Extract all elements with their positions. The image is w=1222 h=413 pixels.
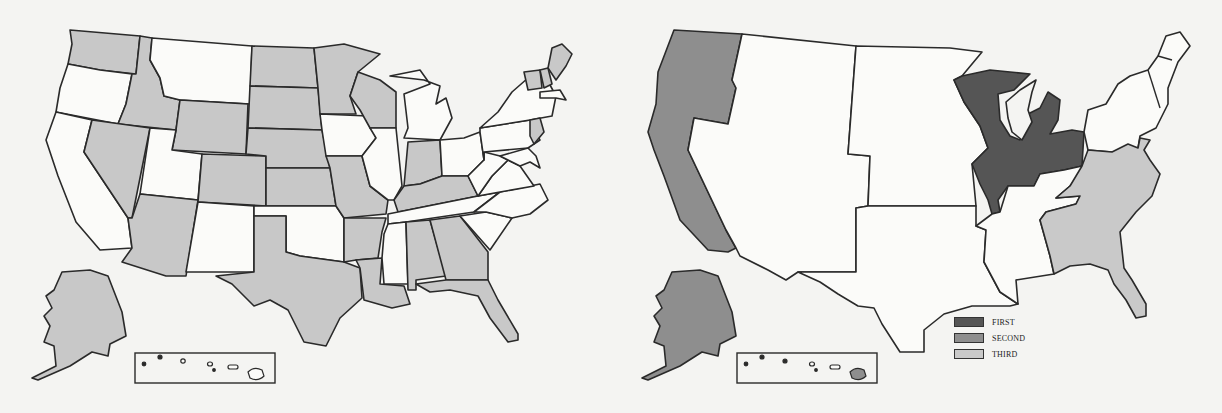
legend-swatch-third xyxy=(954,349,984,359)
legend-item-third: THIRD xyxy=(954,346,1025,362)
legend-label-second: SECOND xyxy=(992,334,1025,343)
legend-label-first: FIRST xyxy=(992,318,1015,327)
right-us-map xyxy=(0,0,1222,413)
legend-swatch-second xyxy=(954,333,984,343)
region-west-north-central xyxy=(848,46,988,206)
legend-swatch-first xyxy=(954,317,984,327)
legend-item-second: SECOND xyxy=(954,330,1025,346)
legend-label-third: THIRD xyxy=(992,350,1017,359)
legend: FIRST SECOND THIRD xyxy=(954,314,1025,362)
region-northeast xyxy=(1084,32,1190,152)
state-alaska-right xyxy=(642,270,736,380)
legend-item-first: FIRST xyxy=(954,314,1025,330)
figure: FIRST SECOND THIRD xyxy=(0,0,1222,413)
hawaii-inset-right xyxy=(737,353,877,383)
